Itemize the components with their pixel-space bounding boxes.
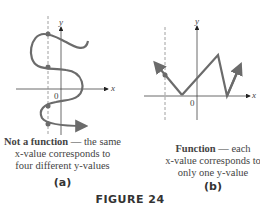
caption-b-line3: only one y-value	[158, 167, 260, 179]
caption-a-line2: x-value corresponds to	[0, 148, 125, 160]
sublabel-b: (b)	[158, 180, 260, 193]
caption-b-rest: — each	[216, 143, 251, 154]
x-axis-label: x	[252, 90, 256, 100]
curve-a	[31, 34, 88, 126]
intersection-dot	[163, 73, 168, 78]
intersection-dot	[46, 122, 51, 127]
caption-b-bold: Function	[175, 143, 215, 154]
caption-a-bold: Not a function	[4, 136, 68, 147]
caption-a-line3: four different y-values	[0, 160, 125, 172]
sublabel-a: (a)	[0, 176, 125, 189]
caption-b: Function — each x-value corresponds to o…	[158, 143, 260, 179]
caption-a: Not a function — the same x-value corres…	[0, 136, 125, 172]
figure-label: FIGURE 24	[0, 193, 260, 206]
y-axis-label: y	[59, 17, 63, 27]
x-axis-label: x	[111, 83, 115, 93]
caption-b-line2: x-value corresponds to	[158, 155, 260, 167]
graph-b-line-left	[156, 64, 182, 95]
y-axis-label: y	[195, 16, 199, 26]
origin-label: 0	[190, 98, 195, 108]
caption-a-rest: — the same	[68, 136, 121, 147]
graph-b-line-right	[227, 66, 240, 96]
intersection-dot	[46, 32, 51, 37]
origin-label: 0	[54, 91, 59, 101]
intersection-dot	[46, 65, 51, 70]
intersection-dot	[46, 104, 51, 109]
